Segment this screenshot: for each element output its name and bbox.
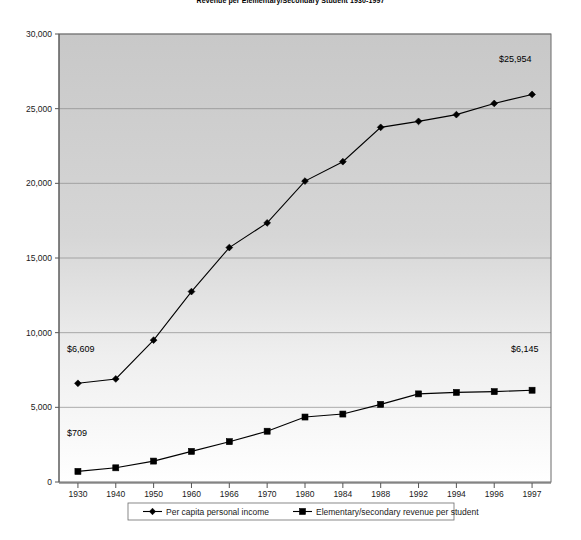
x-tick-label: 1992 — [409, 489, 428, 499]
square-marker-icon — [453, 389, 459, 395]
y-tick-label: 25,000 — [26, 104, 52, 114]
y-tick-label: 30,000 — [26, 29, 52, 39]
x-tick-label: 1940 — [106, 489, 125, 499]
square-marker-icon — [300, 509, 306, 515]
data-label: $25,954 — [499, 54, 532, 64]
square-marker-icon — [113, 465, 119, 471]
x-axis-ticks-group: 1930194019501960196619701980198419881992… — [68, 483, 541, 499]
x-tick-label: 1980 — [296, 489, 315, 499]
data-label: $6,145 — [511, 344, 539, 354]
x-tick-label: 1950 — [144, 489, 163, 499]
square-marker-icon — [264, 428, 270, 434]
y-tick-label: 10,000 — [26, 328, 52, 338]
x-tick-label: 1970 — [258, 489, 277, 499]
legend-label-income: Per capita personal income — [166, 507, 269, 517]
square-marker-icon — [340, 411, 346, 417]
x-tick-label: 1960 — [182, 489, 201, 499]
x-tick-label: 1966 — [220, 489, 239, 499]
chart-legend[interactable]: Per capita personal income Elementary/se… — [128, 503, 479, 520]
square-marker-icon — [378, 401, 384, 407]
square-marker-icon — [529, 387, 535, 393]
legend-label-revenue: Elementary/secondary revenue per student — [316, 507, 479, 517]
x-tick-label: 1984 — [333, 489, 352, 499]
data-label: $6,609 — [67, 344, 95, 354]
x-tick-label: 1930 — [68, 489, 87, 499]
y-tick-label: 20,000 — [26, 178, 52, 188]
y-tick-label: 0 — [47, 477, 52, 487]
data-label: $709 — [67, 428, 87, 438]
y-axis-ticks-group: 05,00010,00015,00020,00025,00030,000 — [26, 29, 59, 487]
square-marker-icon — [302, 414, 308, 420]
x-tick-label: 1994 — [447, 489, 466, 499]
square-marker-icon — [188, 448, 194, 454]
legend-item-elementary-secondary-revenue[interactable]: Elementary/secondary revenue per student — [293, 507, 479, 517]
square-marker-icon — [75, 468, 81, 474]
square-marker-icon — [416, 391, 422, 397]
x-tick-label: 1988 — [371, 489, 390, 499]
square-marker-icon — [226, 439, 232, 445]
x-tick-label: 1996 — [485, 489, 504, 499]
square-marker-icon — [491, 389, 497, 395]
x-tick-label: 1997 — [523, 489, 542, 499]
square-marker-icon — [151, 458, 157, 464]
chart-container: Revenue per Elementary/Secondary Student… — [0, 0, 581, 540]
chart-plot: 05,00010,00015,00020,00025,00030,000 193… — [0, 0, 581, 540]
y-tick-label: 5,000 — [31, 402, 53, 412]
y-tick-label: 15,000 — [26, 253, 52, 263]
